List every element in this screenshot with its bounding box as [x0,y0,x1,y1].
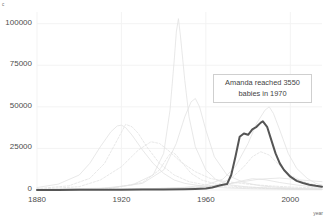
x-axis-tick-label: 1880 [17,196,57,204]
annotation-line-2: babies in 1970 [238,89,286,100]
annotation-callout: Amanda reached 3550 babies in 1970 [213,74,312,103]
chart-container: c 0250005000075000100000 188019201960200… [0,0,325,217]
x-axis-tick-label: 2000 [270,196,310,204]
y-axis-tick-label: 75000 [0,60,32,68]
y-axis-tick-label: 25000 [0,143,32,151]
y-axis-tick-label: 0 [0,185,32,193]
plot-canvas [0,0,325,217]
x-axis-title: year [313,211,323,216]
y-axis-tick-label: 100000 [0,19,32,27]
x-axis-tick-label: 1960 [186,196,226,204]
y-axis-tick-label: 50000 [0,102,32,110]
corner-label: c [2,3,4,8]
x-axis-tick-label: 1920 [101,196,141,204]
annotation-line-1: Amanda reached 3550 [225,78,300,89]
